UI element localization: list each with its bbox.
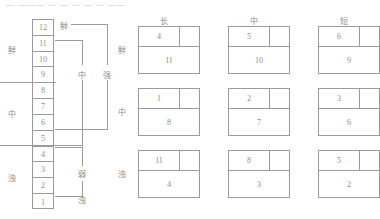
connector-zhong-vertical [82,80,83,146]
cell-top-row: 11 [139,151,199,171]
connector-row11-horizontal [55,40,83,41]
cell-top-blank [180,151,199,170]
cell-bottom-value: 11 [139,47,199,73]
group-divider-lower [0,145,56,146]
grid-cell: 6 9 [318,26,380,74]
bracket-label-zhuo: 浊 [78,194,86,205]
side-label-zhong: 中 [8,108,16,119]
cell-bottom-value: 3 [229,171,289,197]
side-label-xian: 鲜 [8,44,16,55]
cell-top-row: 2 [229,89,289,109]
row-header-xian: 鲜 [118,44,126,55]
cell-top-value: 8 [229,151,270,170]
column-header-duan: 短 [340,15,348,26]
cell-bottom-value: 7 [229,109,289,135]
connector-row11-vertical [82,40,83,65]
ladder-step: 2 [33,178,53,194]
cell-bottom-value: 8 [139,109,199,135]
cell-bottom-value: 4 [139,171,199,197]
connector-xian-vertical [107,24,108,65]
cell-top-value: 5 [229,27,270,46]
connector-ruo-top-horizontal [55,147,83,148]
cell-top-value: 1 [139,89,180,108]
grid-cell: 8 3 [228,150,290,198]
group-divider-upper [0,82,56,83]
cell-top-blank [270,89,289,108]
cell-top-value: 6 [319,27,360,46]
ladder-step: 8 [33,83,53,99]
cell-top-row: 1 [139,89,199,109]
cell-bottom-value: 9 [319,47,379,73]
row-header-zhuo: 浊 [118,168,126,179]
grid-cell: 5 2 [318,150,380,198]
grid-cell: 2 7 [228,88,290,136]
bracket-label-qiang: 强 [103,69,111,80]
column-header-zhong: 中 [250,15,258,26]
cell-top-value: 3 [319,89,360,108]
cell-top-blank [360,89,379,108]
cell-top-row: 5 [319,151,379,171]
cell-top-row: 4 [139,27,199,47]
cell-bottom-value: 2 [319,171,379,197]
ladder-step: 12 [33,20,53,36]
cell-top-blank [360,27,379,46]
cell-top-blank [360,151,379,170]
cell-top-row: 8 [229,151,289,171]
grid-cell: 11 4 [138,150,200,198]
grid-cell: 5 10 [228,26,290,74]
twelve-step-ladder: 12 11 10 9 8 7 6 5 4 3 2 1 [32,19,54,209]
cell-top-row: 6 [319,27,379,47]
cell-top-blank [180,89,199,108]
grid-cell: 1 8 [138,88,200,136]
cell-top-value: 5 [319,151,360,170]
bracket-label-xian: 鲜 [60,20,68,31]
ladder-step: 3 [33,162,53,178]
ladder-step: 7 [33,99,53,115]
connector-qiang-vertical [107,80,108,130]
cell-top-row: 3 [319,89,379,109]
column-header-chang: 长 [160,15,168,26]
truncated-header-text: — ——— — — — — — —— [6,0,206,9]
connector-zhong-horizontal [55,145,83,146]
bracket-label-zhong: 中 [78,69,86,80]
connector-qiang-horizontal [55,129,108,130]
cell-top-blank [270,151,289,170]
ladder-step: 9 [33,67,53,83]
cell-top-value: 2 [229,89,270,108]
ladder-step: 1 [33,194,53,210]
side-label-zhuo: 浊 [8,172,16,183]
bracket-label-ruo: 弱 [78,168,86,179]
cell-bottom-value: 10 [229,47,289,73]
cell-top-row: 5 [229,27,289,47]
ladder-step: 10 [33,52,53,68]
connector-ruo-vertical-upper [82,147,83,166]
ladder-step: 11 [33,36,53,52]
ladder-step: 4 [33,147,53,163]
row-header-zhong: 中 [118,106,126,117]
ladder-step: 6 [33,115,53,131]
connector-xian-horizontal [71,24,108,25]
grid-cell: 4 11 [138,26,200,74]
cell-top-value: 4 [139,27,180,46]
cell-top-blank [180,27,199,46]
cell-bottom-value: 6 [319,109,379,135]
cell-top-blank [270,27,289,46]
cell-top-value: 11 [139,151,180,170]
grid-cell: 3 6 [318,88,380,136]
